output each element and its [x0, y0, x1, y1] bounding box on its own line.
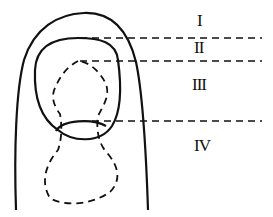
zone-label-1: I	[197, 11, 202, 31]
fingertip-diagram	[0, 0, 273, 217]
zone-label-3: III	[192, 75, 206, 95]
zone-label-2: II	[194, 38, 203, 58]
lunula-arc	[56, 121, 106, 131]
finger-outline	[15, 13, 148, 210]
zone-label-4: IV	[194, 136, 210, 156]
